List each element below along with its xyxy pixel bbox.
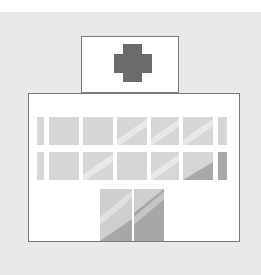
window — [49, 152, 79, 180]
entrance-door-right — [134, 189, 164, 241]
window — [151, 152, 179, 180]
window — [83, 117, 113, 145]
window — [83, 152, 113, 180]
window — [49, 117, 79, 145]
medical-cross-icon-horizontal — [114, 54, 152, 73]
window — [37, 117, 44, 145]
window — [218, 117, 227, 145]
window — [117, 117, 147, 145]
window — [183, 117, 213, 145]
window — [218, 152, 227, 180]
window — [183, 152, 213, 180]
entrance-door-left — [100, 189, 132, 241]
window — [117, 152, 147, 180]
window — [37, 152, 44, 180]
window — [151, 117, 179, 145]
